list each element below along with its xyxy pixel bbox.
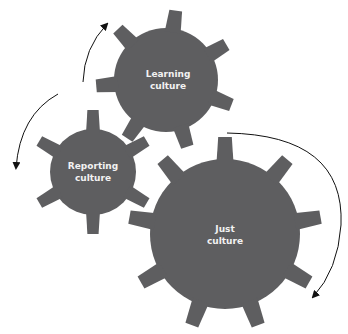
just-label-line2: culture <box>207 236 243 246</box>
learning-label-line2: culture <box>150 81 186 91</box>
gears-diagram: Learning culture Reporting culture Just … <box>0 0 348 334</box>
arrow-down-left-icon <box>16 94 58 168</box>
learning-culture-gear <box>96 10 235 150</box>
arrow-up-icon <box>83 24 107 82</box>
learning-label-line1: Learning <box>146 69 191 79</box>
reporting-label-line1: Reporting <box>68 161 118 171</box>
reporting-label-line2: culture <box>75 173 111 183</box>
just-label-line1: Just <box>214 224 235 234</box>
